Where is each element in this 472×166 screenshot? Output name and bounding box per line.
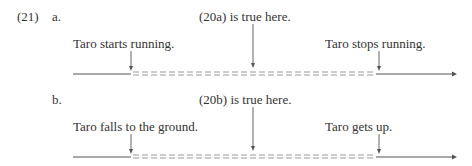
start-pointer-arrow-icon	[129, 134, 133, 154]
state-interval-dashes	[133, 155, 375, 158]
timeline-b	[0, 0, 472, 166]
timeline-arrowhead-icon	[452, 155, 457, 160]
header-pointer-arrow-icon	[251, 107, 255, 151]
end-pointer-arrow-icon	[377, 134, 381, 154]
